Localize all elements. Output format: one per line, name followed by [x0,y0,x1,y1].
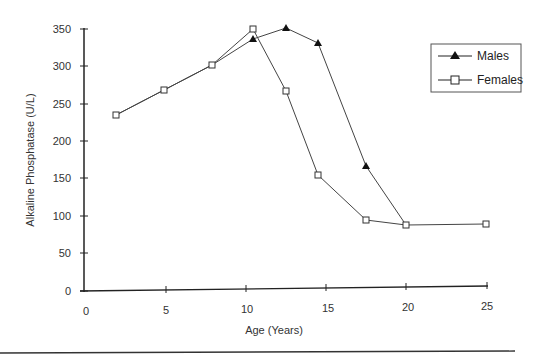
x-axis-title: Age (Years) [245,324,303,336]
x-ticks [166,282,487,293]
legend-females-label: Females [477,73,523,87]
legend-males-label: Males [477,49,509,63]
x-tick-labels: 0 5 10 15 20 25 [83,300,493,317]
y-tick-labels: 0 50 100 150 200 250 300 350 [53,23,71,297]
males-markers [249,24,370,169]
y-tick-label: 200 [53,135,71,147]
y-tick-label: 50 [59,247,71,259]
legend: Males Females [431,44,523,92]
bottom-rule [0,351,515,353]
y-tick-label: 300 [53,60,71,72]
y-tick-label: 0 [65,285,71,297]
males-line [116,28,406,225]
x-tick-label: 15 [322,302,334,314]
x-tick-label: 5 [163,304,169,316]
x-tick-label: 0 [83,305,89,317]
x-axis [80,286,488,291]
chart: 0 50 100 150 200 250 300 350 0 5 10 15 2… [0,0,546,361]
square-marker-icon [451,76,459,84]
x-tick-label: 20 [402,301,414,313]
y-tick-label: 100 [53,210,71,222]
y-tick-label: 350 [53,23,71,35]
y-tick-label: 250 [53,98,71,110]
x-tick-label: 25 [481,300,493,312]
y-tick-label: 150 [53,172,71,184]
x-tick-label: 10 [241,303,253,315]
y-axis-title: Alkaline Phosphatase (U/L) [24,93,36,226]
